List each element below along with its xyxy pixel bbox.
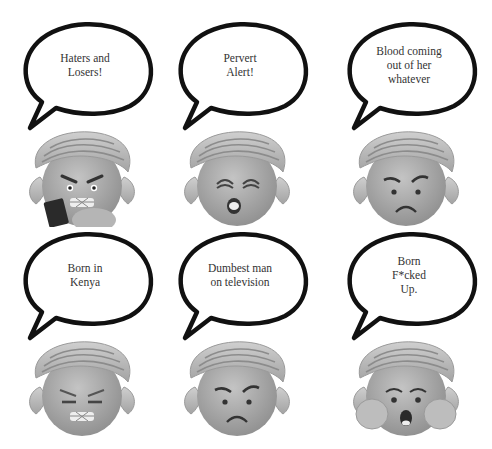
speech-text: Dumbest man on television [189, 234, 291, 316]
speech-text: Pervert Alert! [189, 24, 291, 106]
panel-blood-coming-out: Blood coming out of her whatever [324, 10, 488, 222]
panel-dumbest-man: Dumbest man on television [155, 220, 319, 432]
angry-face-with-phone-icon [0, 122, 164, 227]
angry-frown-face-icon [324, 122, 488, 227]
panel-born-in-kenya: Born in Kenya [0, 220, 164, 432]
speech-bubble: Haters and Losers! [0, 10, 164, 130]
squinting-surprised-face-icon [155, 122, 319, 227]
speech-bubble: Dumbest man on television [155, 220, 319, 340]
speech-text: Born in Kenya [34, 234, 136, 316]
speech-text: Haters and Losers! [34, 24, 136, 106]
speech-bubble: Blood coming out of her whatever [324, 10, 488, 130]
angry-frown-face-icon [155, 332, 319, 437]
panel-born-f-cked-up: Born F*cked Up. [324, 220, 488, 432]
shocked-face-hands-on-cheeks-icon [324, 332, 488, 437]
speech-bubble: Pervert Alert! [155, 10, 319, 130]
speech-bubble: Born F*cked Up. [324, 220, 488, 340]
speech-bubble: Born in Kenya [0, 220, 164, 340]
speech-text: Born F*cked Up. [358, 234, 460, 316]
panel-haters-and-losers: Haters and Losers! [0, 10, 164, 222]
panel-pervert-alert: Pervert Alert! [155, 10, 319, 222]
speech-text: Blood coming out of her whatever [358, 24, 460, 106]
squinting-gritted-teeth-face-icon [0, 332, 164, 437]
